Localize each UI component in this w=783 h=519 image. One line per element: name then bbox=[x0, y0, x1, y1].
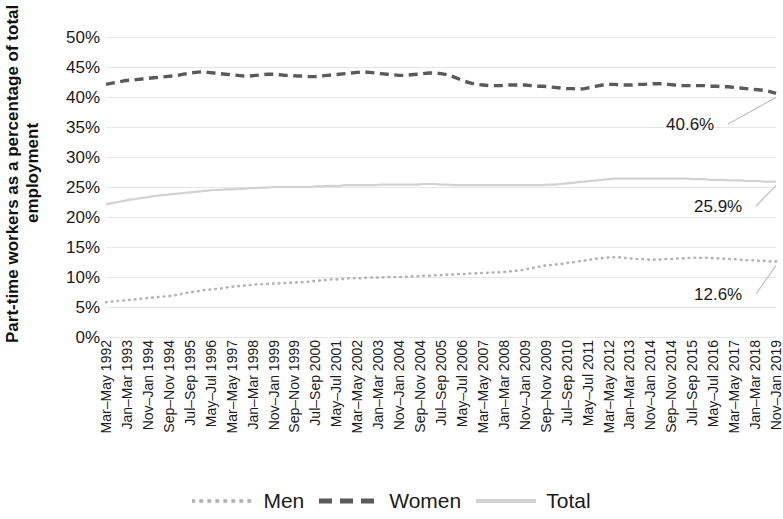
legend-swatch-dashed bbox=[318, 495, 380, 507]
legend-item-women[interactable]: Women bbox=[318, 490, 461, 511]
data-label-women: 40.6% bbox=[666, 115, 714, 135]
x-axis-tick-label: Jan–Mar 2013 bbox=[620, 340, 638, 476]
y-axis-title-line-1: Part-time workers as a percentage of tot… bbox=[3, 3, 23, 343]
x-axis-tick-label: Mar–May 1997 bbox=[223, 340, 241, 476]
y-axis-tick-label: 20% bbox=[66, 209, 100, 226]
y-axis-tick-label: 25% bbox=[66, 179, 100, 196]
x-axis-tick-label: May–Jul 2001 bbox=[327, 340, 345, 476]
y-axis-tick-label: 40% bbox=[66, 89, 100, 106]
x-axis-tick-labels: Mar–May 1992Jan–Mar 1993Nov–Jan 1994Sep–… bbox=[106, 340, 776, 480]
x-axis-tick-label: May–Jul 2006 bbox=[453, 340, 471, 476]
x-axis-tick-label: Jan–Mar 1998 bbox=[244, 340, 262, 476]
x-axis-tick-label: Jul–Sep 2010 bbox=[558, 340, 576, 476]
y-axis-tick-label: 50% bbox=[66, 29, 100, 46]
x-axis-tick-label: Mar–May 2002 bbox=[348, 340, 366, 476]
series-line-total bbox=[106, 179, 776, 205]
x-axis-tick-label: Mar–May 2017 bbox=[725, 340, 743, 476]
y-axis-tick-label: 35% bbox=[66, 119, 100, 136]
legend-item-total[interactable]: Total bbox=[475, 490, 590, 511]
legend-label: Total bbox=[546, 490, 590, 511]
x-axis-tick-label: Nov–Jan 2004 bbox=[390, 340, 408, 476]
legend-swatch-dotted bbox=[192, 495, 254, 507]
x-axis-tick-label: May–Jul 1996 bbox=[202, 340, 220, 476]
x-axis-tick-label: Nov–Jan 2019 bbox=[767, 340, 783, 476]
x-axis-tick-label: Jul–Sep 1995 bbox=[181, 340, 199, 476]
chart-legend: MenWomenTotal bbox=[0, 482, 783, 519]
x-axis-tick-label: Sep–Nov 2009 bbox=[537, 340, 555, 476]
legend-label: Men bbox=[263, 490, 304, 511]
x-axis-tick-label: Mar–May 2007 bbox=[474, 340, 492, 476]
x-axis-tick-label: Jul–Sep 2015 bbox=[683, 340, 701, 476]
legend-swatch-solid bbox=[475, 495, 537, 507]
legend-item-men[interactable]: Men bbox=[192, 490, 304, 511]
x-axis-tick-label: Jan–Mar 2003 bbox=[369, 340, 387, 476]
y-axis-tick-label: 5% bbox=[75, 299, 100, 316]
x-axis-tick-label: Mar–May 1992 bbox=[97, 340, 115, 476]
line-chart: Part-time workers as a percentage of tot… bbox=[0, 0, 783, 519]
y-axis-tick-label: 15% bbox=[66, 239, 100, 256]
x-axis-tick-label: Nov–Jan 2009 bbox=[516, 340, 534, 476]
y-axis-tick-label: 10% bbox=[66, 269, 100, 286]
y-axis-tick-label: 45% bbox=[66, 59, 100, 76]
x-axis-tick-label: May–Jul 2011 bbox=[579, 340, 597, 476]
x-axis-tick-label: Sep–Nov 2004 bbox=[411, 340, 429, 476]
x-axis-tick-label: Sep–Nov 1994 bbox=[160, 340, 178, 476]
data-label-total: 25.9% bbox=[694, 197, 742, 217]
x-axis-tick-label: Nov–Jan 1994 bbox=[139, 340, 157, 476]
x-axis-tick-label: Nov–Jan 1999 bbox=[265, 340, 283, 476]
x-axis-tick-label: Sep–Nov 1999 bbox=[285, 340, 303, 476]
x-axis-tick-label: Jul–Sep 2005 bbox=[432, 340, 450, 476]
y-axis-title-line-2: employment bbox=[23, 3, 43, 343]
x-axis-tick-label: Mar–May 2012 bbox=[600, 340, 618, 476]
y-axis-title: Part-time workers as a percentage of tot… bbox=[0, 0, 46, 345]
x-axis-tick-label: Nov–Jan 2014 bbox=[641, 340, 659, 476]
y-axis-tick-labels: 50%45%40%35%30%25%20%15%10%5%0% bbox=[44, 26, 104, 348]
series-line-men bbox=[106, 257, 776, 302]
legend-label: Women bbox=[389, 490, 461, 511]
x-axis-tick-label: May–Jul 2016 bbox=[704, 340, 722, 476]
series-line-women bbox=[106, 72, 776, 94]
x-axis-tick-label: Sep–Nov 2014 bbox=[662, 340, 680, 476]
gridline bbox=[106, 337, 776, 338]
x-axis-tick-label: Jan–Mar 2008 bbox=[495, 340, 513, 476]
x-axis-tick-label: Jul–Sep 2000 bbox=[306, 340, 324, 476]
y-axis-tick-label: 30% bbox=[66, 149, 100, 166]
x-axis-tick-label: Jan–Mar 2018 bbox=[746, 340, 764, 476]
data-label-men: 12.6% bbox=[694, 285, 742, 305]
x-axis-tick-label: Jan–Mar 1993 bbox=[118, 340, 136, 476]
series-lines bbox=[106, 37, 776, 337]
plot-area bbox=[106, 37, 776, 337]
